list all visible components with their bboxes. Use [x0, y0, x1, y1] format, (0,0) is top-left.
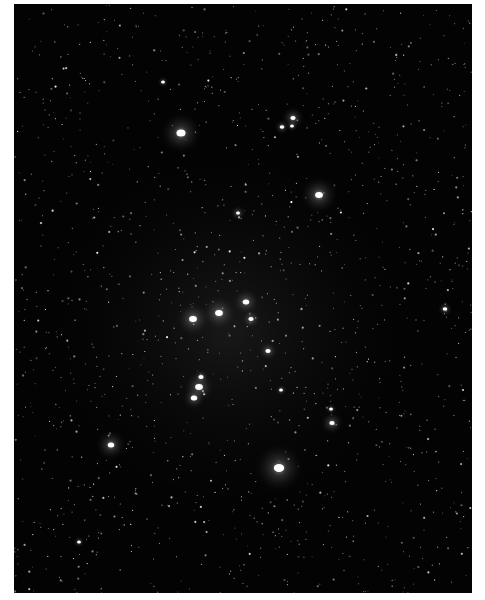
star-field-canvas — [14, 4, 472, 593]
star-field-image — [14, 4, 472, 593]
